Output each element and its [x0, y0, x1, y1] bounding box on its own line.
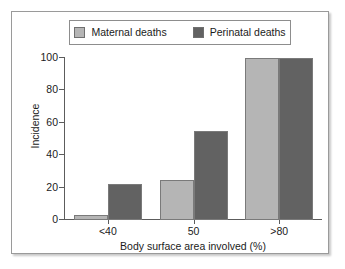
y-axis-tick — [59, 89, 64, 90]
chart-figure-frame: Maternal deaths Perinatal deaths Inciden… — [11, 11, 329, 254]
bar-series-layer — [65, 57, 322, 220]
y-axis-tick — [59, 57, 64, 58]
x-axis-tick-label: >80 — [244, 226, 314, 237]
bar-perinatal-deaths-1 — [194, 131, 228, 220]
bar-maternal-deaths-2 — [245, 58, 279, 220]
x-axis-title: Body surface area involved (%) — [64, 240, 322, 252]
y-axis-tick — [59, 154, 64, 155]
plot-area: Maternal deaths Perinatal deaths Inciden… — [12, 12, 330, 255]
y-axis-tick-label: 0 — [18, 214, 58, 225]
x-axis-tick-label: 50 — [159, 226, 229, 237]
y-axis-tick-label: 60 — [18, 117, 58, 128]
legend-swatch-icon-maternal-deaths — [74, 27, 85, 38]
x-axis-tick — [108, 220, 109, 224]
legend-entry-maternal-deaths: Maternal deaths — [74, 27, 166, 38]
x-axis-tick — [194, 220, 195, 224]
x-axis-tick — [279, 220, 280, 224]
y-axis-tick — [59, 219, 64, 220]
x-axis-tick-label: <40 — [73, 226, 143, 237]
bar-maternal-deaths-0 — [74, 215, 108, 220]
y-axis-tick-label: 40 — [18, 149, 58, 160]
bar-perinatal-deaths-2 — [279, 58, 313, 220]
y-axis-tick-label: 80 — [18, 84, 58, 95]
legend-entry-perinatal-deaths: Perinatal deaths — [193, 27, 286, 38]
legend-label-maternal-deaths: Maternal deaths — [91, 27, 166, 38]
y-axis-tick-label: 20 — [18, 181, 58, 192]
bar-maternal-deaths-1 — [160, 180, 194, 221]
y-axis-tick — [59, 122, 64, 123]
legend-swatch-icon-perinatal-deaths — [193, 27, 204, 38]
bar-perinatal-deaths-0 — [108, 184, 142, 220]
legend-label-perinatal-deaths: Perinatal deaths — [210, 27, 286, 38]
chart-legend: Maternal deaths Perinatal deaths — [69, 20, 291, 45]
y-axis-tick-label: 100 — [18, 52, 58, 63]
y-axis-tick — [59, 187, 64, 188]
